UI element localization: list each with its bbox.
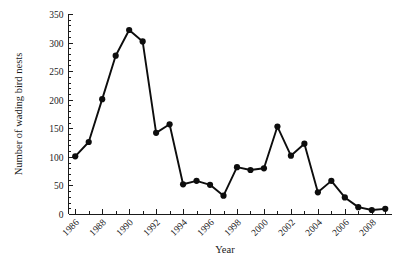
- data-point: [274, 123, 280, 129]
- x-axis-tick-labels: 1986198819901992199419961998200020022004…: [60, 217, 378, 238]
- data-point: [261, 165, 267, 171]
- x-tick-label: 2006: [330, 217, 351, 238]
- data-point: [180, 181, 186, 187]
- y-axis-tick-labels: 050100150200250300350: [49, 10, 64, 220]
- x-tick-label: 1986: [60, 217, 81, 238]
- data-point: [301, 141, 307, 147]
- x-tick-label: 2000: [249, 217, 270, 238]
- chart-figure: 050100150200250300350 198619881990199219…: [0, 0, 397, 262]
- y-tick-label: 200: [49, 96, 64, 106]
- data-point: [288, 153, 294, 159]
- data-point: [382, 206, 388, 212]
- x-tick-label: 2004: [303, 217, 324, 238]
- data-point: [113, 53, 119, 59]
- data-point: [315, 189, 321, 195]
- x-tick-label: 1990: [114, 217, 135, 238]
- data-point: [369, 207, 375, 213]
- data-point: [166, 121, 172, 127]
- chart-canvas: 050100150200250300350 198619881990199219…: [0, 0, 397, 262]
- x-axis-title: Year: [215, 244, 235, 255]
- y-tick-label: 0: [59, 210, 64, 220]
- x-tick-label: 1998: [222, 217, 243, 238]
- x-tick-label: 1988: [87, 217, 108, 238]
- data-point: [247, 167, 253, 173]
- data-point: [153, 130, 159, 136]
- x-tick-label: 1992: [141, 217, 162, 238]
- y-tick-label: 250: [49, 67, 64, 77]
- y-axis-ticks: [69, 15, 73, 215]
- data-point: [140, 38, 146, 44]
- x-tick-label: 1994: [168, 217, 189, 238]
- data-point: [328, 178, 334, 184]
- y-tick-label: 150: [49, 124, 64, 134]
- data-point: [355, 204, 361, 210]
- data-point: [193, 178, 199, 184]
- data-series-markers: [72, 27, 388, 213]
- y-tick-label: 100: [49, 153, 64, 163]
- data-point: [207, 182, 213, 188]
- data-point: [86, 139, 92, 145]
- x-tick-label: 1996: [195, 217, 216, 238]
- y-tick-label: 300: [49, 39, 64, 49]
- data-series-line: [75, 30, 385, 210]
- data-point: [126, 27, 132, 33]
- y-tick-label: 50: [54, 181, 64, 191]
- x-tick-label: 2002: [276, 217, 297, 238]
- y-tick-label: 350: [49, 10, 64, 20]
- data-point: [72, 153, 78, 159]
- data-point: [234, 164, 240, 170]
- y-axis-title: Number of wading bird nests: [13, 53, 24, 175]
- data-point: [342, 194, 348, 200]
- data-point: [220, 193, 226, 199]
- data-point: [99, 96, 105, 102]
- x-tick-label: 2008: [357, 217, 378, 238]
